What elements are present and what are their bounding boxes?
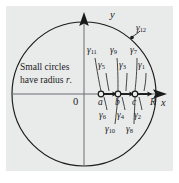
figure-container: Small circles have radius r. y x 0 R a b… — [0, 0, 179, 183]
small-circle-b — [115, 91, 121, 97]
gamma-label-10: γ10 — [105, 125, 115, 135]
gamma-8-sub: 8 — [130, 127, 133, 134]
radius-note-line2-period: . — [70, 75, 72, 85]
radius-note-line2: have radius r. — [20, 74, 72, 87]
gamma-9-sub: 9 — [114, 48, 117, 55]
gamma-4-sub: 4 — [121, 113, 124, 120]
gamma-label-6: γ6 — [99, 111, 106, 121]
gamma-3-sub: 3 — [123, 63, 126, 70]
gamma-7-sub: 7 — [134, 48, 137, 55]
gamma-label-7: γ7 — [130, 46, 137, 56]
gamma-label-3: γ3 — [119, 61, 126, 71]
small-circle-a — [98, 91, 104, 97]
radius-note-line2-prefix: have radius — [20, 75, 66, 85]
gamma-label-2: γ2 — [134, 111, 141, 121]
gamma-1-sub: 1 — [142, 63, 145, 70]
gamma-10-sub: 10 — [109, 127, 115, 134]
origin-label: 0 — [73, 97, 78, 108]
point-label-c: c — [132, 98, 136, 108]
gamma-5-sub: 5 — [102, 63, 105, 70]
gamma-label-12: γ12 — [136, 24, 146, 34]
gamma-2-sub: 2 — [138, 113, 141, 120]
gamma-12-sub: 12 — [140, 26, 146, 33]
radius-note-line1: Small circles — [20, 61, 72, 74]
gamma12-anchor-dot — [130, 36, 134, 40]
radius-note: Small circles have radius r. — [20, 61, 72, 86]
diagram-vector-layer — [6, 6, 173, 171]
gamma-label-8: γ8 — [126, 125, 133, 135]
gamma-6-sub: 6 — [103, 113, 106, 120]
y-axis-label: y — [110, 10, 115, 21]
gamma-label-5: γ5 — [98, 61, 105, 71]
small-circles-group — [98, 91, 138, 97]
figure-panel: Small circles have radius r. y x 0 R a b… — [6, 6, 173, 171]
gamma-label-1: γ1 — [138, 61, 145, 71]
gamma-11-sub: 11 — [91, 48, 97, 55]
point-label-b: b — [115, 98, 120, 108]
gamma-label-11: γ11 — [87, 46, 97, 56]
point-label-a: a — [98, 98, 103, 108]
small-circle-c — [132, 91, 138, 97]
radius-label-R: R — [150, 98, 156, 108]
x-axis-label: x — [161, 98, 166, 109]
gamma-label-9: γ9 — [110, 46, 117, 56]
gamma-label-4: γ4 — [117, 111, 124, 121]
